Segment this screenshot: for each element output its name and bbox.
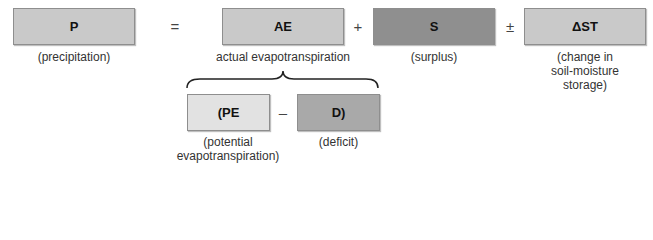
potential-evapotranspiration-symbol: (PE [218, 105, 240, 120]
minus-operator: – [273, 105, 293, 121]
deficit-label: (deficit) [297, 135, 380, 149]
deficit-symbol: D) [332, 105, 346, 120]
potential-evapotranspiration-box: (PE [187, 94, 270, 131]
potential-evapotranspiration-label: (potential evapotranspiration) [158, 135, 298, 163]
deficit-box: D) [297, 94, 380, 131]
